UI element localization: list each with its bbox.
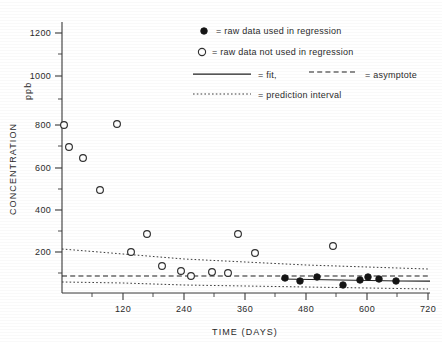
data-point-open (225, 270, 232, 277)
chart-canvas: 1200 1000 800 600 400 200 120 240 360 48… (0, 0, 442, 342)
data-point-open (330, 243, 337, 250)
data-point-open (188, 273, 195, 280)
data-point-open (128, 249, 135, 256)
data-point-open (144, 231, 151, 238)
data-point-filled (282, 275, 289, 282)
x-ticklabel-600: 600 (359, 304, 375, 314)
prediction-interval-upper (62, 249, 428, 269)
data-point-open (235, 231, 242, 238)
y-axis-units: ppb (23, 82, 33, 100)
y-ticklabel-400: 400 (35, 205, 51, 215)
figure-scatter-plot: 1200 1000 800 600 400 200 120 240 360 48… (0, 0, 442, 342)
data-point-open (252, 250, 259, 257)
x-axis-title: TIME (DAYS) (212, 327, 278, 337)
prediction-interval-lower (62, 282, 428, 289)
data-point-open (159, 263, 166, 270)
x-ticklabel-360: 360 (237, 304, 253, 314)
legend-label-used: = raw data used in regression (216, 26, 342, 36)
data-point-open (61, 122, 68, 129)
legend-open-circle-icon (198, 48, 205, 55)
data-point-filled (393, 278, 400, 285)
x-ticklabel-240: 240 (176, 304, 192, 314)
x-ticklabel-120: 120 (115, 304, 131, 314)
x-ticklabel-480: 480 (298, 304, 314, 314)
y-ticklabel-1200: 1200 (30, 28, 51, 38)
legend-filled-circle-icon (201, 28, 208, 35)
series-filled-circles (282, 274, 400, 289)
legend-label-fit: = fit, (258, 70, 277, 80)
y-axis-title: CONCENTRATION (8, 123, 18, 215)
legend-label-prediction: = prediction interval (258, 90, 342, 100)
data-point-filled (314, 274, 321, 281)
data-point-open (97, 187, 104, 194)
series-open-circles (61, 121, 337, 280)
data-point-filled (376, 276, 383, 283)
data-point-filled (340, 282, 347, 289)
data-point-filled (365, 274, 372, 281)
y-ticklabel-800: 800 (35, 120, 51, 130)
data-point-filled (297, 278, 304, 285)
data-point-open (80, 155, 87, 162)
x-ticklabel-720: 720 (420, 304, 436, 314)
y-ticklabel-200: 200 (35, 247, 51, 257)
data-point-open (178, 268, 185, 275)
data-point-open (209, 269, 216, 276)
y-ticklabel-1000: 1000 (30, 71, 51, 81)
y-tick-labels: 1200 1000 800 600 400 200 (30, 28, 51, 257)
y-ticklabel-600: 600 (35, 163, 51, 173)
legend: = raw data used in regression = raw data… (193, 26, 417, 100)
axis-group (55, 22, 430, 300)
data-point-open (66, 144, 73, 151)
data-point-filled (357, 277, 364, 284)
data-point-open (114, 121, 121, 128)
legend-label-asymptote: = asymptote (365, 70, 417, 80)
legend-label-notused: = raw data not used in regression (212, 47, 354, 57)
x-tick-labels: 120 240 360 480 600 720 (115, 304, 436, 314)
